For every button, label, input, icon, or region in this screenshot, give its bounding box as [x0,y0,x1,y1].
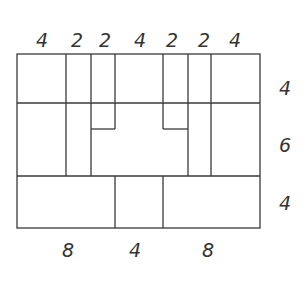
top-label-2: 2 [71,31,83,50]
bottom-label-2: 4 [129,241,141,260]
outer-rectangle [17,54,260,228]
top-label-3: 2 [99,31,111,50]
bottom-label-3: 8 [202,241,214,260]
top-label-5: 2 [166,31,178,50]
top-label-1: 4 [36,31,48,50]
top-label-7: 4 [229,31,241,50]
right-label-1: 4 [279,79,291,98]
right-label-2: 6 [279,136,291,155]
partition-diagram: 4 2 2 4 2 2 4 4 6 4 8 4 8 [0,0,308,282]
top-label-6: 2 [198,31,210,50]
bottom-label-1: 8 [62,241,74,260]
top-label-4: 4 [134,31,146,50]
right-label-3: 4 [279,194,291,213]
